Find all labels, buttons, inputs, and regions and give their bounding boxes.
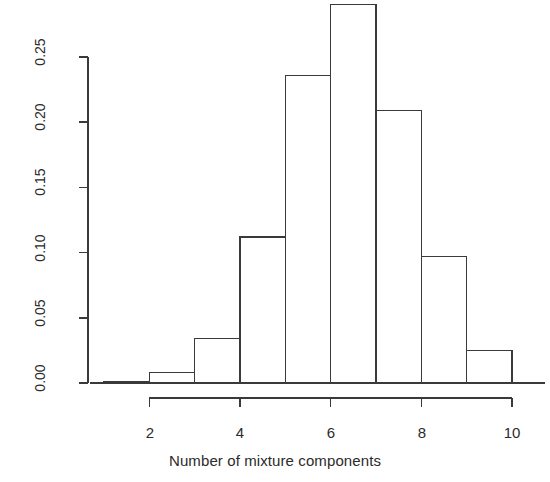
histogram-bar [421,257,466,383]
x-axis [90,383,545,407]
histogram-bar [285,75,330,383]
histogram-figure: Frequency 0.00 0.05 0.10 0.15 0.20 0.25 … [0,0,550,482]
histogram-bar [195,339,240,383]
plot-area [0,0,550,482]
histogram-bar [376,110,421,383]
histogram-bar [240,237,285,383]
y-axis [79,57,88,383]
histogram-bar [467,350,512,383]
histogram-bar [149,373,194,383]
histogram-bar [104,382,149,383]
histogram-bars [104,5,512,383]
histogram-bar [331,5,376,383]
